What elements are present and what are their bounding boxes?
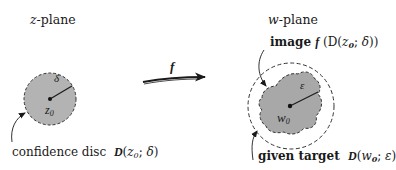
z-plane-title: z-plane bbox=[30, 12, 76, 27]
image-sep: ; bbox=[354, 35, 362, 49]
w0-base: w bbox=[277, 110, 286, 125]
target-close: ) bbox=[392, 149, 396, 163]
target-caption: given target D(w0; ε) bbox=[258, 149, 396, 164]
target-var: w bbox=[361, 149, 371, 163]
z-plane-var: z bbox=[30, 12, 37, 27]
z0-label: z0 bbox=[45, 103, 54, 118]
image-close: )) bbox=[369, 35, 378, 49]
caption-param: δ bbox=[147, 145, 154, 159]
delta-label: δ bbox=[54, 72, 59, 84]
target-text: given target bbox=[258, 149, 340, 163]
caption-D: D bbox=[114, 145, 123, 159]
w0-sub: 0 bbox=[286, 117, 290, 126]
w-plane-var: w bbox=[268, 12, 279, 27]
center-point-z0 bbox=[48, 97, 52, 101]
w0-label: w0 bbox=[277, 110, 290, 126]
pointer-arrow-image bbox=[259, 50, 266, 86]
image-text: image bbox=[270, 35, 311, 49]
z-plane-suffix: -plane bbox=[37, 12, 76, 27]
caption-sep: ; bbox=[139, 145, 147, 159]
target-D: D bbox=[348, 149, 357, 163]
target-sep: ; bbox=[377, 149, 385, 163]
center-point-w0 bbox=[288, 104, 292, 108]
caption-text: confidence disc bbox=[12, 145, 106, 159]
image-label: image f (D(z0; δ)) bbox=[270, 35, 378, 50]
mapping-arrow bbox=[143, 77, 205, 82]
image-region bbox=[259, 72, 322, 134]
paren-close: ) bbox=[154, 145, 159, 159]
confidence-disc-caption: confidence disc D(z0; δ) bbox=[12, 145, 158, 160]
w-plane-suffix: -plane bbox=[279, 12, 318, 27]
pointer-arrow-disc bbox=[12, 113, 25, 142]
mapping-f-label: f bbox=[170, 59, 174, 75]
z0-sub: 0 bbox=[50, 109, 54, 118]
pointer-arrow-target bbox=[252, 131, 257, 160]
image-open: (D( bbox=[319, 35, 342, 49]
image-param: δ bbox=[362, 35, 369, 49]
w-plane-title: w-plane bbox=[268, 12, 318, 27]
epsilon-label: ε bbox=[300, 79, 304, 91]
